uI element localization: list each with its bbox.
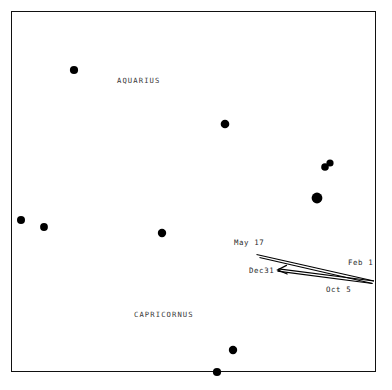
star [158, 229, 166, 237]
constellation-label-capricornus: CAPRICORNUS [134, 310, 194, 319]
star-bright [312, 193, 323, 204]
star-field [17, 66, 334, 376]
star-chart: AQUARIUS CAPRICORNUS May 17 Feb 1 Oct 5 … [0, 0, 392, 390]
constellation-label-aquarius: AQUARIUS [117, 76, 160, 85]
star [221, 120, 230, 129]
star [213, 368, 221, 376]
date-label-dec-31: Dec31 [249, 266, 274, 275]
sky-canvas [0, 0, 392, 390]
star [229, 346, 237, 354]
date-label-oct-5: Oct 5 [326, 285, 351, 294]
star [17, 216, 25, 224]
date-label-may-17: May 17 [234, 238, 264, 247]
date-label-feb-1: Feb 1 [348, 258, 373, 267]
star [70, 66, 78, 74]
star [40, 223, 48, 231]
star [321, 163, 329, 171]
